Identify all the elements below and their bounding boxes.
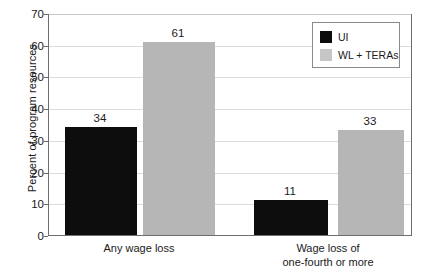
y-axis-tick-label: 40 (0, 103, 44, 115)
bar-value-label: 61 (172, 27, 185, 39)
bar-ui (254, 200, 328, 235)
y-axis-tick-label: 0 (0, 230, 44, 242)
legend-swatch-icon-ui (320, 31, 332, 43)
gridline (49, 14, 411, 15)
y-axis-tick-label: 60 (0, 40, 44, 52)
legend-label-wl-teras: WL + TERAs (338, 49, 398, 61)
legend-item-wl-teras: WL + TERAs (320, 46, 393, 64)
bar-wl-teras (338, 130, 404, 235)
y-axis-tick-label: 10 (0, 198, 44, 210)
legend: UI WL + TERAs (312, 22, 400, 68)
bar-chart: Percent of program resources 01020304050… (0, 0, 429, 270)
x-axis-category-label: Wage loss of one-fourth or more (282, 242, 373, 269)
x-axis-category-label: Any wage loss (104, 242, 175, 256)
bar-value-label: 11 (284, 185, 296, 197)
y-axis-tick-label: 30 (0, 135, 44, 147)
gridline (49, 109, 411, 110)
bar-ui (65, 127, 137, 235)
legend-label-ui: UI (338, 31, 349, 43)
legend-item-ui: UI (320, 28, 393, 46)
bar-wl-teras (143, 42, 215, 235)
bar-value-label: 34 (94, 112, 107, 124)
legend-swatch-icon-wl-teras (320, 49, 332, 61)
y-axis-tick-label: 50 (0, 71, 44, 83)
y-axis-tick-mark (44, 236, 48, 237)
y-axis-tick-label: 20 (0, 167, 44, 179)
y-axis-tick-label: 70 (0, 8, 44, 20)
bar-value-label: 33 (364, 115, 377, 127)
gridline (49, 77, 411, 78)
